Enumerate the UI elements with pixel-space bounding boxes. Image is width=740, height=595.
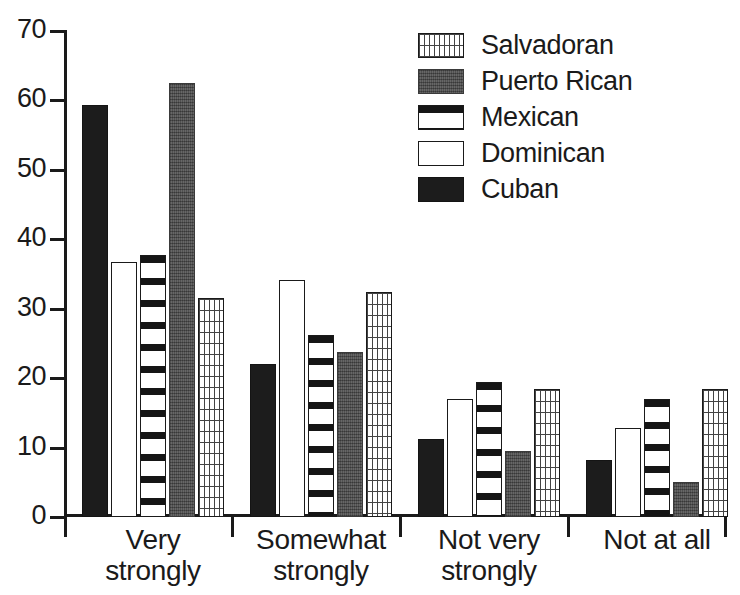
category-label-line2: strongly xyxy=(56,555,250,586)
bar-dominican-very-strongly xyxy=(111,262,137,517)
bar-mexican-not-very-strongly xyxy=(476,382,502,517)
legend-swatch-salvadoran xyxy=(418,33,464,58)
bar-group-very-strongly xyxy=(82,30,224,517)
legend-item-salvadoran: Salvadoran xyxy=(418,27,632,63)
legend-swatch-dominican xyxy=(418,141,464,166)
legend-label-puerto-rican: Puerto Rican xyxy=(481,68,632,95)
category-label-not-at-all: Not at all xyxy=(560,524,740,555)
legend-label-mexican: Mexican xyxy=(481,104,579,131)
legend-label-cuban: Cuban xyxy=(481,176,559,203)
legend-item-puerto-rican: Puerto Rican xyxy=(418,63,632,99)
category-label-line1: Somewhat xyxy=(256,524,386,555)
bar-dominican-not-very-strongly xyxy=(447,399,473,517)
bar-puerto-rican-not-very-strongly xyxy=(505,451,531,517)
bar-salvadoran-somewhat-strongly xyxy=(366,292,392,517)
bar-puerto-rican-not-at-all xyxy=(673,482,699,517)
bar-mexican-very-strongly xyxy=(140,255,166,517)
bar-cuban-somewhat-strongly xyxy=(250,364,276,517)
bar-mexican-somewhat-strongly xyxy=(308,335,334,517)
bar-dominican-not-at-all xyxy=(615,428,641,517)
bar-cuban-very-strongly xyxy=(82,105,108,517)
bar-salvadoran-very-strongly xyxy=(198,298,224,517)
legend-swatch-mexican xyxy=(418,105,464,130)
category-label-line1: Not very xyxy=(438,524,540,555)
bar-puerto-rican-very-strongly xyxy=(169,83,195,517)
category-label-line1: Not at all xyxy=(603,524,711,555)
bar-mexican-not-at-all xyxy=(644,399,670,517)
legend-label-salvadoran: Salvadoran xyxy=(481,32,614,59)
legend-swatch-cuban xyxy=(418,177,464,202)
bar-puerto-rican-somewhat-strongly xyxy=(337,352,363,517)
category-label-line2: strongly xyxy=(392,555,586,586)
bar-chart: 706050403020100 VerystronglySomewhatstro… xyxy=(0,0,740,595)
bar-salvadoran-not-at-all xyxy=(702,389,728,517)
legend: SalvadoranPuerto RicanMexicanDominicanCu… xyxy=(418,27,632,207)
bar-salvadoran-not-very-strongly xyxy=(534,389,560,517)
legend-label-dominican: Dominican xyxy=(481,140,605,167)
bar-cuban-not-at-all xyxy=(586,460,612,517)
category-label-not-very-strongly: Not verystrongly xyxy=(392,524,586,586)
legend-item-cuban: Cuban xyxy=(418,171,632,207)
bar-group-somewhat-strongly xyxy=(250,30,392,517)
bar-dominican-somewhat-strongly xyxy=(279,280,305,517)
legend-item-dominican: Dominican xyxy=(418,135,632,171)
category-label-very-strongly: Verystrongly xyxy=(56,524,250,586)
category-label-line1: Very xyxy=(126,524,181,555)
category-label-somewhat-strongly: Somewhatstrongly xyxy=(224,524,418,586)
category-label-line2: strongly xyxy=(224,555,418,586)
bar-cuban-not-very-strongly xyxy=(418,439,444,517)
legend-item-mexican: Mexican xyxy=(418,99,632,135)
legend-swatch-puerto-rican xyxy=(418,69,464,94)
